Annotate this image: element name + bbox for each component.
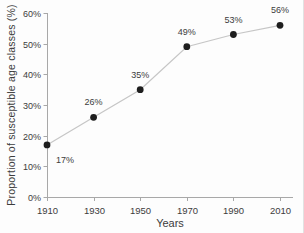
x-tick-label: 1990 (223, 205, 244, 216)
line-chart-figure: Proportion of susceptible age classes (%… (0, 0, 304, 233)
data-point (230, 31, 237, 38)
data-point (44, 142, 51, 149)
plot-area: 0%10%20%30%40%50%60%19101930195019701990… (0, 0, 304, 233)
data-point (183, 43, 190, 50)
data-point-label: 53% (224, 15, 242, 25)
y-tick-label: 40% (23, 70, 41, 80)
data-point-label: 17% (56, 155, 74, 165)
x-tick-label: 1930 (84, 205, 105, 216)
y-tick-label: 60% (23, 9, 41, 19)
data-point-label: 35% (131, 70, 149, 80)
x-tick-label: 1950 (130, 205, 151, 216)
data-point (90, 114, 97, 121)
y-tick-label: 10% (23, 162, 41, 172)
y-tick-label: 20% (23, 132, 41, 142)
data-point-label: 56% (271, 5, 289, 15)
x-tick-label: 1910 (37, 205, 58, 216)
data-point (277, 22, 284, 29)
y-tick-label: 50% (23, 40, 41, 50)
data-point (137, 86, 144, 93)
data-point-label: 26% (85, 97, 103, 107)
y-tick-label: 0% (28, 193, 41, 203)
y-tick-label: 30% (23, 101, 41, 111)
x-tick-label: 2010 (270, 205, 291, 216)
x-axis-title: Years (47, 217, 293, 229)
series-line (47, 25, 280, 145)
x-tick-label: 1970 (177, 205, 198, 216)
data-point-label: 49% (178, 27, 196, 37)
